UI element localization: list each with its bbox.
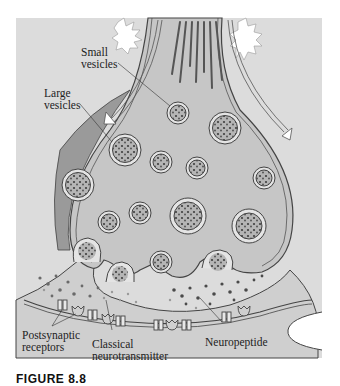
label-postsynaptic-receptors: Postsynaptic receptors bbox=[22, 329, 80, 353]
metabotropic-receptor bbox=[166, 320, 178, 330]
large-vesicle bbox=[232, 209, 266, 243]
label-small-vesicles: Small vesicles bbox=[81, 46, 117, 70]
small-vesicle bbox=[186, 157, 208, 179]
small-vesicle bbox=[150, 151, 172, 173]
label-large-vesicles: Large vesicles bbox=[44, 87, 80, 111]
metabotropic-receptor bbox=[238, 306, 250, 316]
label-neuropeptide: Neuropeptide bbox=[205, 336, 268, 348]
metabotropic-receptor bbox=[102, 314, 114, 324]
large-vesicle bbox=[209, 112, 241, 144]
large-vesicle bbox=[62, 169, 94, 201]
small-vesicle bbox=[167, 102, 189, 124]
figure-caption: FIGURE 8.8 bbox=[16, 372, 86, 386]
large-vesicle bbox=[109, 134, 141, 166]
small-vesicle bbox=[150, 251, 172, 273]
small-vesicle bbox=[98, 211, 120, 233]
small-vesicle bbox=[129, 202, 151, 224]
large-vesicle bbox=[170, 198, 206, 234]
metabotropic-receptor bbox=[72, 306, 84, 316]
small-vesicle bbox=[253, 167, 275, 189]
label-classical-neurotransmitter: Classical neurotransmitter bbox=[92, 338, 168, 362]
